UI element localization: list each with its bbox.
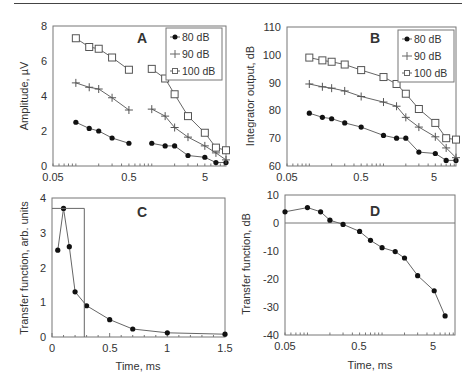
x-tick: 5 [431,171,437,183]
data-point [394,136,399,141]
y-tick: 70 [269,132,281,144]
data-point [379,98,387,106]
filled-circle-marker-icon [173,35,178,40]
data-point [163,143,168,148]
data-point [341,87,349,95]
open-square-marker-icon [173,69,178,74]
x-tick: 0.5 [121,171,136,183]
y-tick-labels: 0 1 2 3 4 [40,192,46,343]
y-tick: 6 [41,55,47,67]
legend: 80 dB 90 dB 100 dB [166,28,222,80]
series-line [52,208,84,337]
data-point [357,229,362,234]
panel-letter: A [137,30,147,46]
data-point [381,133,386,138]
series-line [58,208,225,334]
data-point [108,94,116,102]
x-tick: 0 [49,342,55,354]
y-tick: 0 [273,217,279,229]
series-line [76,122,129,143]
y-tick: 90 [269,77,281,89]
data-point [318,83,326,91]
data-point [306,54,313,61]
y-axis-label: Integrator output, dB [244,46,256,146]
data-point [329,116,334,121]
y-tick: 4 [40,192,46,204]
data-point [148,65,155,72]
y-tick: 80 [269,104,281,116]
data-point [212,144,219,151]
data-point [393,249,398,254]
data-point [149,141,154,146]
data-point [320,115,325,120]
panel-b: 60 70 80 90 100 110 0.05 0.5 5 Integrato… [244,21,460,183]
x-tick-labels: 0.05 0.5 5 [276,171,437,183]
y-axis-label: Transfer function, dB [240,213,252,315]
data-point [125,66,132,73]
data-point [341,61,348,68]
data-point [453,136,460,143]
data-point [202,155,207,160]
series-group [282,205,453,335]
data-point [433,151,438,156]
data-point [443,135,450,142]
data-point [432,288,437,293]
data-point [201,129,208,136]
data-point [282,209,287,214]
figure: 0 2 4 6 8 0.05 0.5 5 Amplitude, µV A 80 … [0,0,472,386]
y-axis-label: Amplitude, µV [18,61,30,130]
x-tick: 1.5 [217,342,232,354]
data-point [380,74,387,81]
data-point [126,141,131,146]
data-point [185,153,190,158]
y-tick: 2 [40,262,46,274]
x-tick: 0.05 [42,171,63,183]
y-tick: -20 [263,273,279,285]
panel-c: 0 1 2 3 4 0 0.5 1 1.5 Time, ms Transfer … [18,192,233,372]
data-point [305,80,313,88]
y-tick: 0 [40,331,46,343]
data-point [415,273,420,278]
y-tick: 8 [41,20,47,32]
data-point [172,143,177,148]
legend-label: 80 dB [182,31,209,43]
data-point [443,313,448,318]
data-point [125,106,133,114]
data-point [328,84,336,92]
y-tick: 100 [263,49,281,61]
x-axis-label: Time, ms [348,359,393,371]
data-point [67,244,72,249]
data-point [213,160,218,165]
data-point [305,205,310,210]
data-point [171,91,178,98]
data-point [416,150,421,155]
data-point [327,218,332,223]
data-point [328,58,335,65]
x-tick: 1 [164,342,170,354]
legend: 80 dB 90 dB 100 dB [398,30,454,82]
data-point [340,222,345,227]
legend-label: 100 dB [414,67,447,79]
data-point [358,67,365,74]
x-tick: 0.5 [351,340,366,352]
data-point [222,332,227,337]
data-point [72,289,77,294]
panel-d: -40 -30 -20 -10 0 10 0.05 0.5 5 Time, ms… [240,189,455,371]
y-tick: 110 [263,21,281,33]
data-point [359,124,364,129]
panel-letter: D [370,203,380,219]
data-point [72,79,80,87]
x-tick-labels: 0 0.5 1 1.5 [49,342,233,354]
y-tick: 2 [41,125,47,137]
panel-letter: C [137,204,147,220]
data-point [368,238,373,243]
data-point [87,126,92,131]
x-tick-labels: 0.05 0.5 5 [42,171,208,183]
y-tick-labels: 60 70 80 90 100 110 [263,21,281,172]
data-point [432,119,439,126]
data-point [357,93,365,101]
data-point [85,83,93,91]
data-point [415,123,423,131]
x-tick: 0.5 [102,342,117,354]
data-point [107,317,112,322]
